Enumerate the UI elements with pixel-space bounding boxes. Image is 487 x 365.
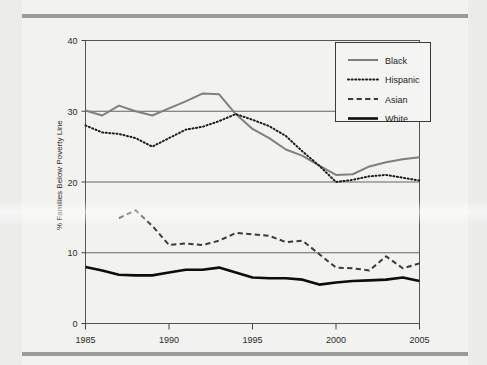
y-axis-title: % Families Below Poverty Line xyxy=(55,120,64,230)
line-chart: 010203040 19851990199520002005 % Familie… xyxy=(0,0,487,365)
y-tick-label-0: 0 xyxy=(72,319,77,329)
legend-label-black: Black xyxy=(385,56,408,66)
legend-label-asian: Asian xyxy=(385,95,408,105)
x-tick-label-1995: 1995 xyxy=(242,335,262,345)
x-axis-ticks: 19851990199520002005 xyxy=(75,324,429,345)
y-axis-ticks: 010203040 xyxy=(67,36,85,329)
legend-label-white: White xyxy=(385,114,408,124)
series-line-asian xyxy=(119,210,420,270)
data-series-layer xyxy=(86,94,420,285)
y-tick-label-40: 40 xyxy=(67,36,77,46)
chart-legend: BlackHispanicAsianWhite xyxy=(336,43,431,125)
y-tick-label-10: 10 xyxy=(67,248,77,258)
series-line-hispanic xyxy=(86,114,420,182)
y-tick-label-20: 20 xyxy=(67,178,77,188)
x-tick-label-1985: 1985 xyxy=(75,335,95,345)
x-tick-label-1990: 1990 xyxy=(159,335,179,345)
x-tick-label-2000: 2000 xyxy=(326,335,346,345)
legend-label-hispanic: Hispanic xyxy=(385,75,420,85)
x-tick-label-2005: 2005 xyxy=(409,335,429,345)
figure-container: 010203040 19851990199520002005 % Familie… xyxy=(0,0,487,365)
y-tick-label-30: 30 xyxy=(67,107,77,117)
